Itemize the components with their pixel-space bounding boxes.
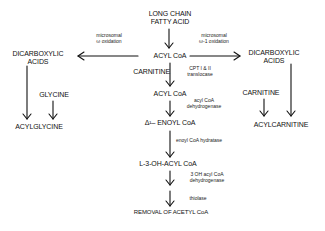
enzyme-label-line2: translocase bbox=[182, 72, 218, 78]
enzyme-label-line2: dehydrogenase bbox=[184, 178, 230, 184]
node-acylglycine: ACYLGLYCINE bbox=[12, 123, 66, 131]
node-right-dicarboxylic-acids: DICARBOXYLIC ACIDS bbox=[245, 49, 303, 65]
node-long-chain-fatty-acid: LONG CHAIN FATTY ACID bbox=[139, 10, 201, 26]
enzyme-3oh-acyl-coa-dehydrogenase: 3 OH acyl CoA dehydrogenase bbox=[184, 172, 230, 184]
enzyme-enoyl-coa-hydratase: enoyl CoA hydratase bbox=[176, 138, 240, 144]
node-label-line2: ACIDS bbox=[10, 58, 66, 66]
node-label-line2: ACIDS bbox=[245, 57, 303, 65]
enzyme-label-line2: dehydrogenase bbox=[184, 104, 224, 110]
node-glycine: GLYCINE bbox=[38, 91, 70, 99]
node-acyl-coa-1: ACYL CoA bbox=[144, 52, 196, 60]
node-label-line2: FATTY ACID bbox=[139, 18, 201, 26]
enzyme-label-line2: ω oxidation bbox=[88, 39, 130, 45]
node-carnitine-right: CARNITINE bbox=[241, 89, 281, 97]
enzyme-cpt-translocase: CPT I & II translocase bbox=[182, 66, 218, 78]
node-label-line1: LONG CHAIN bbox=[139, 10, 201, 18]
diagram-arrows bbox=[0, 0, 325, 231]
node-carnitine-center: CARNITINE bbox=[130, 68, 170, 76]
node-removal-of-acetyl-coa: REMOVAL OF ACETYL CoA bbox=[126, 209, 216, 216]
node-acyl-coa-2: ACYL CoA bbox=[144, 90, 196, 98]
node-enoyl-coa: Δ¹– ENOYL CoA bbox=[132, 119, 208, 127]
node-acylcarnitine: ACYLCARNITINE bbox=[252, 121, 310, 129]
enzyme-omega-oxidation: microsomal ω oxidation bbox=[88, 33, 130, 45]
enzyme-acyl-coa-dehydrogenase: acyl CoA dehydrogenase bbox=[184, 98, 224, 110]
enzyme-label-line2: ω-1 oxidation bbox=[192, 39, 236, 45]
node-label-line1: DICARBOXYLIC bbox=[10, 50, 66, 58]
enzyme-thiolase: thiolase bbox=[186, 196, 210, 202]
node-l3-oh-acyl-coa: L-3-OH-ACYL CoA bbox=[128, 160, 208, 168]
enzyme-omega1-oxidation: microsomal ω-1 oxidation bbox=[192, 33, 236, 45]
node-left-dicarboxylic-acids: DICARBOXYLIC ACIDS bbox=[10, 50, 66, 66]
node-label-line1: DICARBOXYLIC bbox=[245, 49, 303, 57]
